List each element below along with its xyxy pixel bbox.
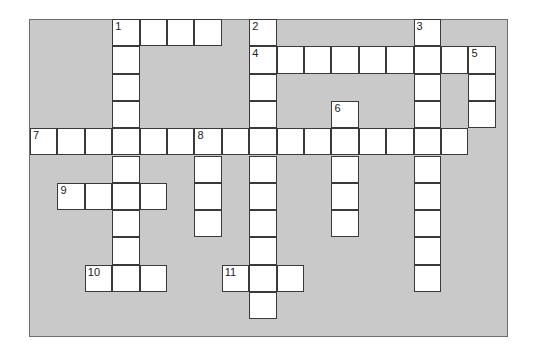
crossword-cell[interactable]: 6 — [331, 101, 358, 128]
crossword-cell[interactable] — [194, 183, 221, 210]
crossword-cell[interactable] — [249, 156, 276, 183]
crossword-cell[interactable] — [414, 128, 441, 155]
crossword-cell[interactable] — [194, 19, 221, 46]
crossword-cell[interactable] — [414, 210, 441, 237]
crossword-cell[interactable] — [249, 128, 276, 155]
crossword-cell[interactable] — [85, 128, 112, 155]
crossword-cell[interactable]: 3 — [414, 19, 441, 46]
crossword-cell[interactable] — [277, 46, 304, 73]
crossword-cell[interactable] — [140, 19, 167, 46]
crossword-cell[interactable] — [112, 101, 139, 128]
crossword-cell[interactable]: 8 — [194, 128, 221, 155]
crossword-cell[interactable] — [194, 156, 221, 183]
crossword-cell[interactable] — [167, 128, 194, 155]
clue-number: 11 — [225, 267, 236, 278]
crossword-cell[interactable] — [249, 74, 276, 101]
crossword-cell[interactable]: 9 — [57, 183, 84, 210]
crossword-cell[interactable] — [57, 128, 84, 155]
clue-number: 10 — [88, 267, 100, 278]
crossword-cell[interactable] — [85, 183, 112, 210]
crossword-cell[interactable] — [140, 265, 167, 292]
crossword-cell[interactable] — [194, 210, 221, 237]
crossword-cell[interactable] — [112, 156, 139, 183]
crossword-cell[interactable] — [386, 128, 413, 155]
crossword-cell[interactable] — [468, 101, 495, 128]
crossword-cell[interactable] — [331, 210, 358, 237]
crossword-cell[interactable]: 1 — [112, 19, 139, 46]
crossword-cell[interactable] — [331, 128, 358, 155]
crossword-cell[interactable] — [249, 237, 276, 264]
crossword-cell[interactable] — [414, 156, 441, 183]
clue-number: 3 — [417, 21, 423, 32]
crossword-cell[interactable]: 4 — [249, 46, 276, 73]
crossword-cell[interactable] — [112, 74, 139, 101]
crossword-cell[interactable] — [386, 46, 413, 73]
crossword-cell[interactable] — [140, 183, 167, 210]
crossword-cell[interactable]: 11 — [222, 265, 249, 292]
crossword-cell[interactable] — [249, 101, 276, 128]
crossword-cell[interactable] — [249, 210, 276, 237]
crossword-cell[interactable] — [414, 46, 441, 73]
clue-number: 1 — [115, 21, 121, 32]
crossword-cell[interactable] — [359, 128, 386, 155]
crossword-cell[interactable]: 10 — [85, 265, 112, 292]
crossword-cell[interactable] — [277, 265, 304, 292]
crossword-cell[interactable] — [331, 46, 358, 73]
clue-number: 7 — [33, 130, 39, 141]
crossword-cell[interactable] — [222, 128, 249, 155]
clue-number: 4 — [252, 48, 258, 59]
crossword-cell[interactable]: 2 — [249, 19, 276, 46]
crossword-cell[interactable] — [441, 46, 468, 73]
crossword-cell[interactable] — [112, 183, 139, 210]
crossword-cell[interactable] — [249, 265, 276, 292]
crossword-cell[interactable] — [112, 128, 139, 155]
crossword-cell[interactable] — [140, 128, 167, 155]
crossword-cell[interactable] — [167, 19, 194, 46]
crossword-cell[interactable] — [112, 265, 139, 292]
crossword-cell[interactable]: 7 — [30, 128, 57, 155]
crossword-cell[interactable] — [331, 183, 358, 210]
crossword-cell[interactable] — [304, 128, 331, 155]
clue-number: 6 — [334, 103, 340, 114]
crossword-cell[interactable] — [414, 237, 441, 264]
clue-number: 2 — [252, 21, 258, 32]
clue-number: 5 — [471, 48, 477, 59]
crossword-cell[interactable] — [414, 74, 441, 101]
crossword-cell[interactable] — [249, 292, 276, 319]
crossword-cell[interactable] — [112, 237, 139, 264]
clue-number: 9 — [60, 185, 66, 196]
crossword-cell[interactable] — [414, 183, 441, 210]
crossword-cell[interactable] — [112, 210, 139, 237]
clue-number: 8 — [197, 130, 203, 141]
crossword-cell[interactable] — [414, 265, 441, 292]
crossword-cell[interactable] — [112, 46, 139, 73]
crossword-cell[interactable] — [414, 101, 441, 128]
crossword-cell[interactable] — [331, 156, 358, 183]
crossword-cell[interactable] — [249, 183, 276, 210]
crossword-cell[interactable] — [441, 128, 468, 155]
crossword-cell[interactable]: 5 — [468, 46, 495, 73]
crossword-cell[interactable] — [468, 74, 495, 101]
crossword-cell[interactable] — [359, 46, 386, 73]
crossword-cell[interactable] — [304, 46, 331, 73]
crossword-cell[interactable] — [277, 128, 304, 155]
